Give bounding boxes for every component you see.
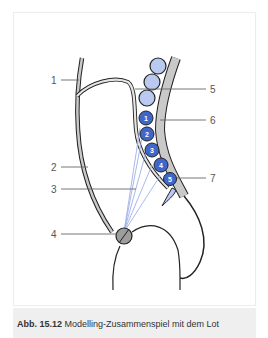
inner-lower-curve [132,226,180,278]
caption-prefix: Abb. 15.12 [17,319,62,329]
svg-text:3: 3 [150,147,154,154]
label-4: 4 [51,229,57,240]
tail-shape [162,188,176,206]
label-2: 2 [51,162,57,173]
label-3: 3 [51,184,57,195]
lower-stem [113,246,120,290]
figure-caption: Abb. 15.12 Modelling-Zusammenspiel mit d… [13,308,256,338]
svg-text:1: 1 [144,115,148,122]
svg-text:5: 5 [168,176,172,183]
svg-text:4: 4 [159,162,163,169]
svg-text:2: 2 [145,131,149,138]
caption-text: Modelling-Zusammenspiel mit dem Lot [65,319,220,329]
label-5: 5 [210,84,216,95]
outer-body-curve [180,196,204,278]
label-7: 7 [210,173,216,184]
anatomical-diagram: 1 2 3 4 5 1 2 3 4 5 6 7 [0,0,268,310]
label-6: 6 [210,115,216,126]
label-1: 1 [51,75,57,86]
